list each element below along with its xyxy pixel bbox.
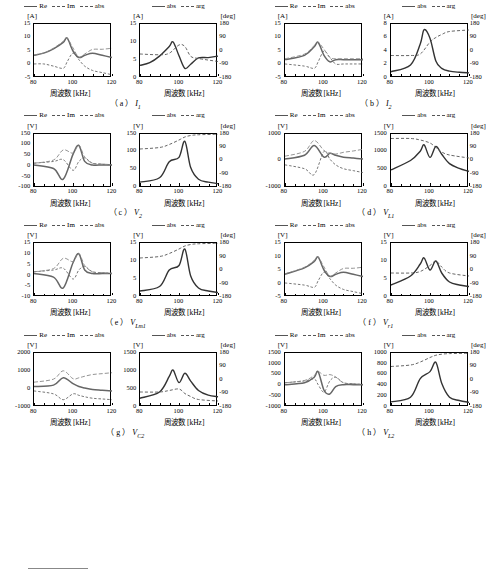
caption-label: （ c ）	[109, 208, 133, 217]
x-tick-label: 100	[313, 79, 333, 86]
legend-swatch-abs	[402, 335, 415, 336]
series-abs	[391, 144, 469, 171]
deg-tick-label: -90	[219, 60, 239, 67]
deg-tick-label: 90	[470, 253, 490, 260]
y-tick-label: 5	[11, 261, 30, 268]
legend-item-Im: Im	[52, 112, 75, 119]
panel-pair: ReImabs[V]150010005000-500-100080100120周…	[251, 329, 501, 427]
plot-area: 151050180900-90-18080100120	[117, 240, 239, 308]
legend-item-Re: Re	[275, 222, 298, 229]
legend-label: abs	[345, 332, 354, 339]
legend-item-abs: abs	[152, 3, 176, 10]
y-tick-label: 1000	[11, 367, 30, 374]
y-tick-label: 50	[11, 151, 30, 158]
legend-label: abs	[95, 3, 104, 10]
y-tick-label: 1500	[262, 349, 281, 356]
legend-swatch-abs	[152, 115, 165, 116]
legend-swatch-arg	[432, 225, 445, 226]
deg-tick-label: 0	[470, 266, 490, 273]
caption-label: （ g ）	[106, 428, 130, 437]
legend-label: abs	[95, 332, 104, 339]
series-Re	[34, 378, 112, 391]
legend-label: arg	[196, 332, 205, 339]
figure-e: ReImabs[V]151050-5-1080100120周波数 [kHz]ab…	[0, 219, 251, 329]
x-tick-label: 100	[313, 188, 333, 195]
legend-left: ReImabs	[11, 219, 117, 231]
legend-label: Im	[318, 3, 326, 10]
legend-swatch-Re	[275, 115, 288, 116]
deg-tick-label: 90	[219, 143, 239, 150]
series-arg	[391, 261, 469, 276]
legend-left: ReImabs	[262, 329, 368, 341]
legend-label: arg	[447, 222, 456, 229]
x-axis-title: 周波数 [kHz]	[368, 419, 490, 427]
legend-label: abs	[345, 112, 354, 119]
x-tick-label: 80	[23, 408, 43, 415]
x-axis-title: 周波数 [kHz]	[262, 90, 368, 98]
caption-symbol: I1	[135, 99, 141, 108]
x-tick-label: 80	[274, 188, 294, 195]
legend-item-abs: abs	[330, 222, 354, 229]
y-tick-label: 150	[117, 130, 136, 137]
legend-swatch-Im	[52, 115, 65, 116]
y-tick-label: 400	[368, 381, 387, 388]
figure-row: ReImabs[A]151050-580100120周波数 [kHz]absar…	[0, 0, 501, 110]
legend-item-arg: arg	[181, 222, 205, 229]
deg-tick-label: 90	[219, 362, 239, 369]
x-tick-label: 80	[380, 188, 400, 195]
legend-swatch-arg	[432, 6, 445, 7]
y-tick-label: 1500	[368, 130, 387, 137]
series-abs	[140, 249, 218, 293]
legend-swatch-Re	[24, 6, 37, 7]
axes-box	[390, 23, 468, 77]
y-tick-label: 0	[262, 156, 281, 163]
x-tick-label: 120	[207, 188, 227, 195]
figure-caption-c: （ c ） V2	[0, 209, 251, 219]
y-tick-label: 10	[368, 257, 387, 264]
legend-swatch-Im	[303, 6, 316, 7]
x-axis-title: 周波数 [kHz]	[11, 309, 117, 317]
legend-label: Im	[67, 112, 75, 119]
y-tick-label: 10	[11, 33, 30, 40]
legend-label: abs	[345, 222, 354, 229]
caption-label: （ b ）	[360, 99, 384, 108]
axes-box	[284, 352, 362, 406]
y-tick-label: 2	[368, 60, 387, 67]
legend-label: arg	[196, 112, 205, 119]
caption-symbol: VL2	[383, 428, 394, 437]
axes-box	[139, 23, 217, 77]
legend-label: Im	[318, 112, 326, 119]
legend-label: abs	[95, 112, 104, 119]
x-axis-title: 周波数 [kHz]	[11, 419, 117, 427]
series-Re	[285, 145, 363, 159]
y-tick-label: 5	[368, 275, 387, 282]
series-abs	[34, 371, 112, 382]
legend-item-Im: Im	[303, 112, 326, 119]
series-arg	[140, 134, 218, 149]
legend-item-Im: Im	[303, 222, 326, 229]
legend-item-Im: Im	[52, 222, 75, 229]
series-abs	[391, 258, 469, 287]
figure-b: ReImabs[A]151050-580100120周波数 [kHz]absar…	[251, 0, 501, 110]
legend-right: absarg	[117, 329, 239, 341]
plot-area: 150010005000180900-90-18080100120	[368, 131, 490, 199]
panel-a-R: absarg[A][deg]151050180900-90-1808010012…	[117, 0, 239, 98]
legend-item-abs: abs	[330, 112, 354, 119]
y-tick-label: 15	[262, 239, 281, 246]
x-tick-label: 100	[168, 79, 188, 86]
y-tick-label: 1000	[368, 349, 387, 356]
deg-tick-label: 90	[219, 33, 239, 40]
curve-group	[391, 353, 469, 407]
legend-right: absarg	[117, 110, 239, 122]
y-tick-label: 2000	[11, 349, 30, 356]
x-tick-label: 100	[313, 298, 333, 305]
curve-group	[140, 243, 218, 297]
series-Im	[34, 391, 112, 400]
figure-f: ReImabs[V]151050-580100120周波数 [kHz]absar…	[251, 219, 501, 329]
figure-a: ReImabs[A]151050-580100120周波数 [kHz]absar…	[0, 0, 251, 110]
plot-area: 150010005000-500-100080100120	[262, 350, 368, 418]
deg-tick-label: 90	[219, 253, 239, 260]
legend-item-abs: abs	[152, 112, 176, 119]
plot-area: 150010005000180900-90-18080100120	[117, 350, 239, 418]
x-tick-label: 100	[168, 188, 188, 195]
